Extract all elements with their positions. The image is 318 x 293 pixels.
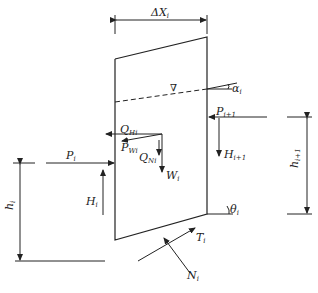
delta-x-label: ΔXi (151, 7, 169, 20)
water-table-line (115, 89, 207, 102)
t-arrow (138, 228, 195, 261)
n-label: Ni (187, 270, 199, 283)
h-i-force-label: Hi (86, 196, 98, 209)
p-i-label: Pi (66, 150, 76, 163)
q-n-label: QNi (139, 152, 156, 165)
w-label: Wi (166, 170, 180, 183)
h-next-force-label: Hi+1 (224, 149, 246, 162)
n-arrow (164, 238, 190, 273)
t-label: Ti (196, 232, 206, 245)
slice-force-diagram: ΔXi αi ∇ Pi+1 QHi PWi QNi Wi Hi+1 Pi Hi … (0, 0, 318, 293)
p-next-label: Pi+1 (216, 106, 236, 119)
p-w-label: PWi (121, 142, 138, 155)
water-level-symbol: ∇ (170, 83, 177, 93)
alpha-label: αi (232, 83, 242, 96)
q-h-label: QHi (120, 124, 137, 137)
h-i-dimension-label: hi (4, 201, 17, 210)
diagram-lines (0, 0, 318, 293)
theta-label: θi (230, 204, 239, 217)
h-next-dimension-label: hi+1 (289, 148, 302, 168)
slice-outline (115, 37, 207, 240)
